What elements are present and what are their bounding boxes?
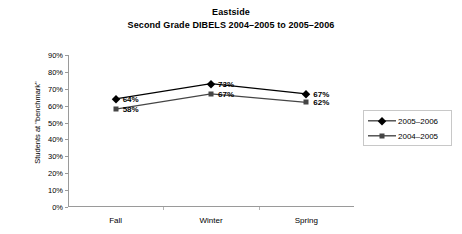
y-axis-title: Students at "benchmark" <box>33 48 42 198</box>
x-tick-mark <box>163 207 164 210</box>
x-tick-label: Fall <box>109 216 122 225</box>
data-point-label: 64% <box>123 94 139 103</box>
data-point-label: 62% <box>313 98 329 107</box>
y-tick-label: 60% <box>48 101 63 110</box>
y-tick-label: 30% <box>48 152 63 161</box>
data-point-label: 67% <box>218 89 234 98</box>
x-tick-label: Spring <box>295 216 318 225</box>
plot-area: 0%10%20%30%40%50%60%70%80%90% FallWinter… <box>68 55 354 207</box>
x-tick-label: Winter <box>199 216 222 225</box>
legend-label-0: 2005–2006 <box>398 117 438 126</box>
y-tick-label: 40% <box>48 135 63 144</box>
legend-marker-square-icon <box>368 130 396 142</box>
y-tick-mark <box>65 207 68 208</box>
data-point-label: 73% <box>218 79 234 88</box>
chart-title-block: Eastside Second Grade DIBELS 2004–2005 t… <box>0 6 462 32</box>
chart-container: Eastside Second Grade DIBELS 2004–2005 t… <box>0 0 462 234</box>
legend: 2005–2006 2004–2005 <box>363 110 452 146</box>
y-tick-label: 90% <box>48 51 63 60</box>
chart-title: Eastside <box>0 6 462 19</box>
y-tick-label: 70% <box>48 84 63 93</box>
chart-subtitle: Second Grade DIBELS 2004–2005 to 2005–20… <box>0 19 462 32</box>
y-tick-label: 10% <box>48 186 63 195</box>
y-tick-label: 80% <box>48 67 63 76</box>
y-tick-label: 0% <box>52 203 63 212</box>
x-tick-mark <box>259 207 260 210</box>
y-tick-label: 20% <box>48 169 63 178</box>
y-tick-label: 50% <box>48 118 63 127</box>
legend-label-1: 2004–2005 <box>398 132 438 141</box>
legend-marker-diamond-icon <box>368 115 396 127</box>
legend-item-0[interactable]: 2005–2006 <box>368 114 438 128</box>
legend-item-1[interactable]: 2004–2005 <box>368 129 438 143</box>
data-point-label: 58% <box>123 105 139 114</box>
series-lines <box>68 55 354 207</box>
